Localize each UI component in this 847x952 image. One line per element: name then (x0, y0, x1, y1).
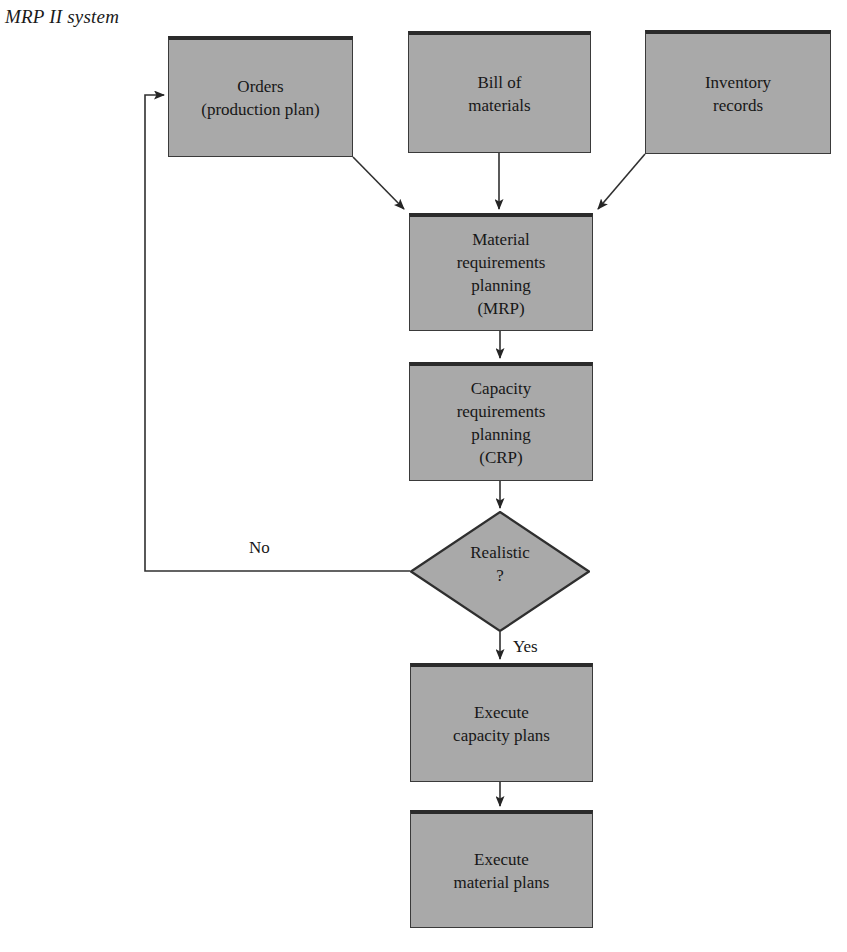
edge-orders-to-mrp (353, 157, 404, 209)
edge-label-no: No (249, 538, 270, 558)
flowchart-node-execute-capacity-plans[interactable]: Execute capacity plans (410, 663, 593, 782)
flowchart-node-bill-of-materials-label: Bill of materials (464, 71, 534, 117)
flowchart-node-execute-material-plans-label: Execute material plans (450, 848, 554, 894)
flowchart-node-inventory-records[interactable]: Inventory records (645, 30, 831, 154)
flowchart-node-realistic-decision[interactable]: Realistic ? (410, 511, 590, 632)
flowchart-node-material-requirements-planning[interactable]: Material requirements planning (MRP) (409, 213, 593, 331)
edge-inventory-to-mrp (598, 154, 645, 209)
flowchart-node-execute-material-plans[interactable]: Execute material plans (410, 810, 593, 928)
flowchart-node-execute-capacity-plans-label: Execute capacity plans (449, 701, 554, 747)
flowchart-node-bill-of-materials[interactable]: Bill of materials (408, 31, 591, 153)
flowchart-node-capacity-requirements-planning-label: Capacity requirements planning (CRP) (453, 377, 550, 469)
flowchart-node-realistic-decision-label: Realistic ? (410, 541, 590, 587)
edge-label-yes: Yes (513, 637, 538, 657)
flowchart-node-material-requirements-planning-label: Material requirements planning (MRP) (453, 228, 550, 320)
flowchart-node-inventory-records-label: Inventory records (701, 71, 775, 117)
flowchart-node-orders[interactable]: Orders (production plan) (168, 36, 353, 157)
edge-decision-no-to-orders (145, 95, 410, 571)
flowchart-node-orders-label: Orders (production plan) (197, 75, 324, 121)
flowchart-node-capacity-requirements-planning[interactable]: Capacity requirements planning (CRP) (409, 362, 593, 481)
